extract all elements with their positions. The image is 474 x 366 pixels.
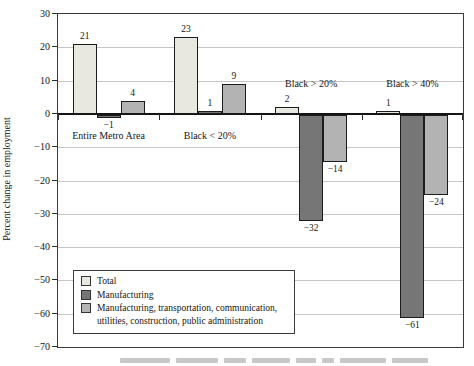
y-tick-label: −70 xyxy=(14,341,50,352)
y-tick-label: −60 xyxy=(14,308,50,319)
bar-s2-c2 xyxy=(323,115,347,162)
caption-cut-off-text xyxy=(120,358,428,366)
caption-word-fragment xyxy=(392,358,428,363)
y-tick-mark xyxy=(52,180,57,181)
category-tick-mark xyxy=(159,114,160,120)
y-tick-label: −50 xyxy=(14,274,50,285)
category-tick-mark xyxy=(261,114,262,120)
y-tick-mark xyxy=(52,46,57,47)
bar-s1-c3 xyxy=(400,115,424,318)
bar-value-label: −61 xyxy=(390,320,434,331)
y-tick-mark xyxy=(52,213,57,214)
legend-item-label: Total xyxy=(97,275,287,288)
bar-s2-c0 xyxy=(121,101,145,114)
caption-word-fragment xyxy=(120,358,170,363)
y-tick-label: 0 xyxy=(14,108,50,119)
caption-word-fragment xyxy=(252,358,290,363)
y-tick-mark xyxy=(52,13,57,14)
legend-swatch-1 xyxy=(81,290,91,300)
y-tick-mark xyxy=(52,113,57,114)
bar-s0-c2 xyxy=(275,107,299,114)
bar-value-label: −14 xyxy=(313,164,357,175)
y-tick-label: −20 xyxy=(14,175,50,186)
category-tick-mark xyxy=(462,114,463,120)
y-tick-label: 30 xyxy=(14,8,50,19)
caption-word-fragment xyxy=(224,358,246,363)
gridline-20 xyxy=(58,47,463,48)
y-tick-label: −10 xyxy=(14,141,50,152)
bar-value-label: 1 xyxy=(366,98,410,109)
bar-value-label: 21 xyxy=(63,31,107,42)
y-tick-label: 20 xyxy=(14,41,50,52)
y-tick-label: 10 xyxy=(14,75,50,86)
bar-value-label: −32 xyxy=(289,223,333,234)
y-tick-mark xyxy=(52,246,57,247)
y-tick-mark xyxy=(52,279,57,280)
y-tick-mark xyxy=(52,313,57,314)
category-tick-mark xyxy=(362,114,363,120)
category-label: Black > 40% xyxy=(354,78,470,90)
legend-item-label: Manufacturing xyxy=(97,289,287,302)
bar-s2-c1 xyxy=(222,84,246,114)
bar-value-label: 4 xyxy=(111,88,155,99)
category-label: Black > 20% xyxy=(253,78,369,90)
legend-swatch-2 xyxy=(81,303,91,313)
bar-s0-c0 xyxy=(73,44,97,114)
bar-value-label: 23 xyxy=(164,24,208,35)
y-tick-mark xyxy=(52,346,57,347)
y-axis-title: Percent change in employment xyxy=(1,99,15,259)
legend-item-label: Manufacturing, transportation, communica… xyxy=(97,302,287,327)
category-tick-mark xyxy=(58,114,59,120)
bar-s1-c1 xyxy=(198,111,222,114)
y-tick-mark xyxy=(52,80,57,81)
caption-word-fragment xyxy=(340,358,386,363)
legend-item-2: Manufacturing, transportation, communica… xyxy=(81,302,287,327)
caption-word-fragment xyxy=(322,358,334,363)
category-label: Entire Metro Area xyxy=(51,130,167,142)
legend-item-0: Total xyxy=(81,275,287,288)
bar-value-label: −24 xyxy=(414,197,458,208)
caption-word-fragment xyxy=(176,358,218,363)
employment-change-bar-chart-figure: Percent change in employment 21−14Entire… xyxy=(0,0,474,366)
y-tick-label: −40 xyxy=(14,241,50,252)
legend-box: TotalManufacturingManufacturing, transpo… xyxy=(73,270,295,334)
legend-swatch-0 xyxy=(81,276,91,286)
bar-value-label: 2 xyxy=(265,94,309,105)
y-tick-label: −30 xyxy=(14,208,50,219)
legend-item-1: Manufacturing xyxy=(81,289,287,302)
bar-s0-c3 xyxy=(376,111,400,114)
y-tick-mark xyxy=(52,146,57,147)
caption-word-fragment xyxy=(296,358,316,363)
category-label: Black < 20% xyxy=(152,130,268,142)
bar-value-label: 9 xyxy=(212,71,256,82)
bar-s2-c3 xyxy=(424,115,448,195)
bar-s1-c0 xyxy=(97,115,121,118)
